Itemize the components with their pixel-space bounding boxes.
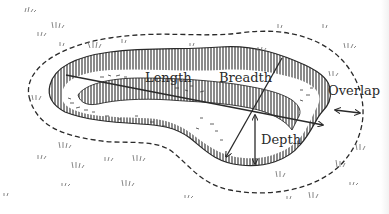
length-label: Length xyxy=(145,71,192,84)
depth-label: Depth xyxy=(261,133,301,146)
breadth-label: Breadth xyxy=(219,71,272,84)
overlap-arrow xyxy=(335,110,360,113)
page-edge-shadow xyxy=(381,0,389,214)
overlap-label: Overlap xyxy=(328,84,380,97)
pond-illustration xyxy=(0,0,389,214)
pond-diagram: Length Breadth Overlap Depth xyxy=(0,0,389,214)
